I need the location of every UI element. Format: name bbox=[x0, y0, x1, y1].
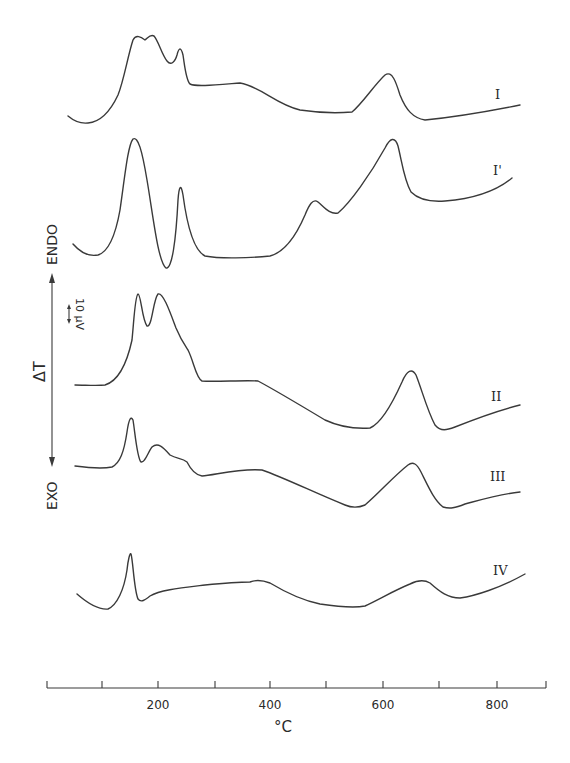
curve-I bbox=[68, 35, 520, 123]
curve-I-prime bbox=[73, 139, 512, 268]
exo-label: EXO bbox=[44, 481, 60, 510]
x-tick-800: 800 bbox=[486, 698, 509, 712]
arrow-up-icon bbox=[49, 273, 55, 283]
scale-bar bbox=[67, 304, 71, 324]
dta-chart: I I' II III IV ENDO ΔT EXO 10 μV 200 400… bbox=[0, 0, 570, 763]
curve-IV bbox=[77, 554, 525, 609]
x-tick-600: 600 bbox=[372, 698, 395, 712]
curve-label-IV: IV bbox=[493, 563, 508, 578]
curve-label-II: II bbox=[491, 389, 501, 404]
endo-label: ENDO bbox=[44, 224, 60, 265]
delta-t-label: ΔT bbox=[30, 361, 49, 382]
x-axis-unit-label: °C bbox=[274, 718, 292, 736]
x-axis bbox=[47, 681, 546, 688]
x-tick-400: 400 bbox=[259, 698, 282, 712]
curve-III bbox=[75, 418, 520, 508]
scale-bar-label: 10 μV bbox=[73, 298, 86, 330]
curve-label-III: III bbox=[490, 469, 505, 484]
curve-label-I-prime: I' bbox=[493, 163, 502, 178]
x-tick-200: 200 bbox=[147, 698, 170, 712]
curve-II bbox=[75, 294, 520, 430]
curve-label-I: I bbox=[495, 87, 500, 102]
arrow-down-icon bbox=[49, 457, 55, 467]
delta-t-arrow bbox=[49, 273, 55, 467]
